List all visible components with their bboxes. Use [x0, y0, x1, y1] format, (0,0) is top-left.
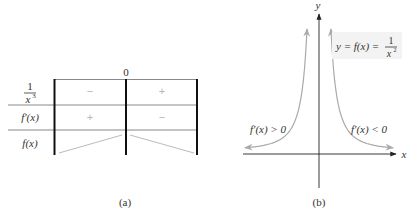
fraction-denominator: x — [25, 93, 31, 105]
x-axis-label: x — [401, 148, 407, 160]
trend-decreasing-line — [130, 135, 194, 153]
trend-increasing-line — [59, 135, 122, 153]
sign-row2-left: + — [87, 111, 93, 123]
caption-b: (b) — [313, 196, 326, 209]
function-label-lhs: y = f(x) = — [335, 40, 379, 53]
row-label-one-over-x-cubed: 1 x 3 — [24, 80, 36, 105]
function-denominator: x — [386, 48, 392, 59]
y-axis-label: y — [315, 0, 321, 11]
fraction-exponent: 3 — [32, 92, 36, 100]
caption-a: (a) — [119, 196, 132, 209]
annotation-f-prime-positive: f′(x) > 0 — [250, 123, 287, 136]
row-label-f: f(x) — [22, 137, 38, 150]
sign-row1-left: − — [87, 85, 93, 97]
row-label-f-prime: f′(x) — [21, 111, 39, 124]
annotation-f-prime-negative: f′(x) < 0 — [351, 123, 388, 136]
fraction-numerator: 1 — [27, 80, 33, 92]
function-exponent: 2 — [394, 47, 397, 53]
function-numerator: 1 — [389, 35, 394, 46]
sign-row2-right: − — [159, 111, 165, 123]
sign-table: 0 1 x 3 − + f′(x) + − f(x) — [8, 66, 197, 155]
column-header-zero: 0 — [123, 66, 129, 78]
figure: 0 1 x 3 − + f′(x) + − f(x) (a) x y — [0, 0, 412, 222]
graph: x y y = f(x) = 1 x 2 f′(x) > 0 f′(x) < 0 — [243, 0, 407, 188]
sign-row1-right: + — [159, 85, 165, 97]
